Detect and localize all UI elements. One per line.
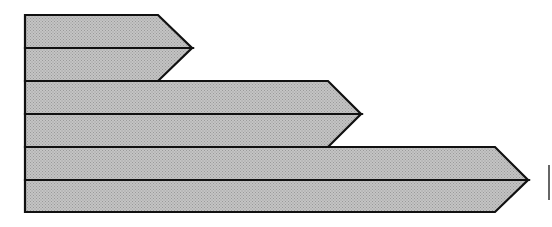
arrow-group [25, 15, 528, 212]
arrow-1-lower-band [25, 48, 192, 81]
arrow-diagram [0, 0, 552, 227]
arrow-1 [25, 15, 192, 81]
arrow-1-upper-band [25, 15, 192, 48]
arrow-2 [25, 81, 361, 147]
arrow-3-lower-band [25, 180, 528, 212]
arrow-3-upper-band [25, 147, 528, 180]
arrow-2-lower-band [25, 114, 361, 147]
arrow-3 [25, 147, 528, 212]
arrow-2-upper-band [25, 81, 361, 114]
